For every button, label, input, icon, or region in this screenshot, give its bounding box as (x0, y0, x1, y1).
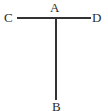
vertex-label-d: D (92, 11, 101, 24)
vertex-label-a: A (50, 1, 59, 14)
vertex-label-c: C (4, 11, 13, 24)
vertex-label-b: B (52, 100, 61, 111)
geometry-figure: A B C D (0, 0, 108, 111)
